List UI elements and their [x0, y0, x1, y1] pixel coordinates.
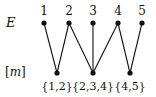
edge [118, 23, 130, 73]
bottom-node [54, 70, 59, 75]
top-node [90, 20, 95, 25]
row-label-m: [m] [5, 65, 26, 79]
top-node [66, 20, 71, 25]
row-label-e: E [5, 15, 16, 30]
top-node [139, 20, 144, 25]
bottom-nodes: {1,2}{2,3,4}{4,5} [41, 70, 146, 93]
top-node-label: 1 [40, 4, 48, 18]
edge [69, 23, 93, 73]
top-nodes: 12345 [40, 4, 146, 26]
edges [44, 23, 142, 73]
top-node-label: 3 [89, 4, 97, 18]
bottom-node [90, 70, 95, 75]
bottom-node-label: {4,5} [114, 80, 146, 93]
row-label-m-var: m [10, 65, 21, 79]
top-node [115, 20, 120, 25]
edge [44, 23, 57, 73]
bottom-node-label: {1,2} [41, 80, 73, 93]
edge [130, 23, 142, 73]
top-node [41, 20, 46, 25]
bottom-node-label: {2,3,4} [72, 80, 114, 93]
top-node-label: 4 [114, 4, 122, 18]
top-node-label: 5 [138, 4, 146, 18]
edge [57, 23, 69, 73]
bipartite-graph: E [m] 12345 {1,2}{2,3,4}{4,5} [0, 0, 156, 97]
top-node-label: 2 [65, 4, 73, 18]
bottom-node [127, 70, 132, 75]
edge [93, 23, 118, 73]
